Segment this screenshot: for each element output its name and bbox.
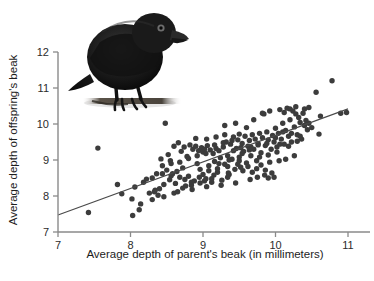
data-point [225,175,230,180]
y-axis-title: Average depth of offspring's beak [7,54,19,225]
data-point [216,161,221,166]
data-point [197,167,202,172]
data-point [221,140,226,145]
data-point [189,180,194,185]
data-point [204,136,209,141]
data-point [206,163,211,168]
tick-marks-group [53,52,348,237]
data-point [274,149,279,154]
data-point [237,158,242,163]
data-point [206,168,211,173]
data-point [195,153,200,158]
data-point [168,158,173,163]
data-point [277,141,282,146]
data-point [283,157,288,162]
data-point [176,140,181,145]
data-point [147,190,152,195]
data-point [212,142,217,147]
data-point [155,193,160,198]
data-point [130,213,135,218]
data-point [264,141,269,146]
plot-canvas: 7891011789101112 Average depth of parent… [0,0,374,281]
data-point [171,190,176,195]
data-point [137,207,142,212]
data-point [293,104,298,109]
data-point [213,134,218,139]
data-point [144,176,149,181]
y-tick-label-7: 7 [43,226,49,238]
data-point [163,121,168,126]
data-point [154,171,159,176]
y-tick-label-11: 11 [38,82,49,94]
data-point [150,197,155,202]
data-point [260,111,265,116]
x-tick-label-11: 11 [342,239,353,251]
data-point [309,125,314,130]
data-point [177,159,182,164]
data-point [229,138,234,143]
data-point [173,181,178,186]
y-tick-label-12: 12 [37,46,49,58]
data-point [215,166,220,171]
data-point [204,184,209,189]
data-point [306,105,311,110]
data-point [197,175,202,180]
data-point [202,178,207,183]
data-point [233,121,238,126]
data-point [160,163,165,168]
data-point [242,134,247,139]
x-tick-label-7: 7 [55,239,61,251]
data-point [293,111,298,116]
data-point [222,132,227,137]
data-point [245,164,250,169]
axes-group [58,52,370,232]
data-point [247,138,252,143]
data-point [177,175,182,180]
data-point [189,187,194,192]
data-point [267,159,272,164]
data-point [166,152,171,157]
data-point [186,156,191,161]
data-point [280,121,285,126]
data-point [268,147,273,152]
data-point [161,182,166,187]
data-point [313,90,318,95]
scatter-plot-figure: 7891011789101112 Average depth of parent… [0,0,374,281]
data-point [225,164,230,169]
data-point [250,170,255,175]
data-point [248,153,253,158]
data-point [182,177,187,182]
data-point [180,185,185,190]
data-point [219,177,224,182]
data-point [258,162,263,167]
data-point [226,157,231,162]
data-point [244,125,249,130]
data-point [266,152,271,157]
data-point [276,158,281,163]
data-point [279,136,284,141]
data-point [329,78,334,83]
data-point [164,167,169,172]
data-point [271,175,276,180]
data-point [287,117,292,122]
data-point [264,129,269,134]
data-point [210,151,215,156]
data-point [157,186,162,191]
y-tick-label-8: 8 [43,190,49,202]
data-point [255,175,260,180]
data-point [295,139,300,144]
data-point [218,183,223,188]
regression-line-group [58,109,348,215]
data-point [254,166,259,171]
data-point [267,108,272,113]
data-point [115,182,120,187]
data-point [209,176,214,181]
data-point [235,137,240,142]
data-point [161,194,166,199]
data-point [239,151,244,156]
data-point [233,180,238,185]
data-point [193,136,198,141]
data-point [257,154,262,159]
data-point [263,167,268,172]
y-tick-label-9: 9 [43,154,49,166]
